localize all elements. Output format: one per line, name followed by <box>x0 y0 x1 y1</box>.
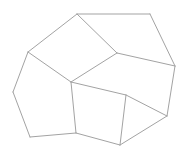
background <box>0 0 188 159</box>
polygon-diagram <box>0 0 188 159</box>
